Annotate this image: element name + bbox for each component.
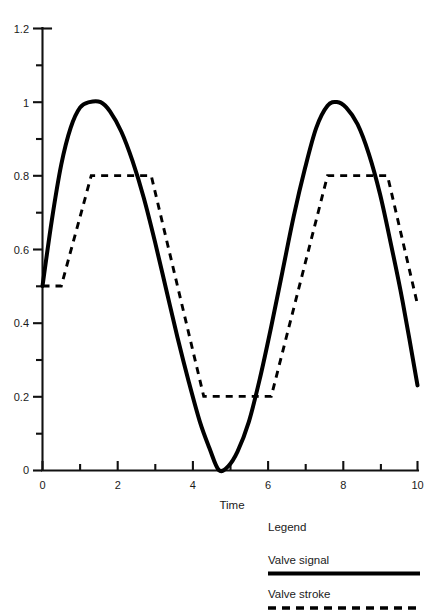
x-tick-label-0: 0 [39,479,45,491]
x-tick-label-10: 10 [411,479,423,491]
legend-label-valve-stroke[interactable]: Valve stroke [268,588,330,600]
x-tick-label-4: 4 [190,479,196,491]
x-tick-label-6: 6 [265,479,271,491]
y-tick-label-1: 1 [23,97,29,109]
y-tick-label-0.6: 0.6 [14,244,29,256]
y-tick-label-0: 0 [23,464,29,476]
legend-label-valve-signal[interactable]: Valve signal [268,554,329,566]
valve-response-chart: 0 0.2 0.4 0.6 0.8 1 1.2 0 2 4 6 8 10 Tim… [0,0,437,610]
x-tick-label-8: 8 [340,479,346,491]
chart-background [0,0,437,610]
y-tick-label-0.8: 0.8 [14,170,29,182]
x-tick-label-2: 2 [115,479,121,491]
legend-title: Legend [268,521,306,533]
x-axis-title: Time [219,499,244,511]
y-tick-label-1.2: 1.2 [14,23,29,35]
y-tick-label-0.2: 0.2 [14,391,29,403]
y-tick-label-0.4: 0.4 [14,317,29,329]
